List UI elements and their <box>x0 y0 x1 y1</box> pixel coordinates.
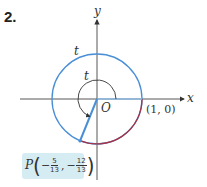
origin-label: O <box>101 101 111 115</box>
x-sign: − <box>41 159 50 172</box>
angle-label-t: t <box>84 69 89 83</box>
point-P-label-box: P ( − 5 13 , − 12 13 ) <box>22 153 84 179</box>
arc-label-t: t <box>74 44 79 58</box>
x-axis-label: x <box>187 91 194 105</box>
y-coordinate: 12 13 <box>76 157 87 174</box>
x-coordinate: 5 13 <box>50 157 59 174</box>
separator: , <box>61 159 65 172</box>
left-paren: ( <box>33 154 41 176</box>
point-P-name: P <box>25 158 33 172</box>
point-P-dot <box>78 139 81 142</box>
y-axis-label: y <box>94 4 101 18</box>
radius-to-P <box>80 99 97 141</box>
right-paren: ) <box>87 154 95 176</box>
point-one-zero: (1, 0) <box>146 103 176 116</box>
y-sign: − <box>67 159 76 172</box>
